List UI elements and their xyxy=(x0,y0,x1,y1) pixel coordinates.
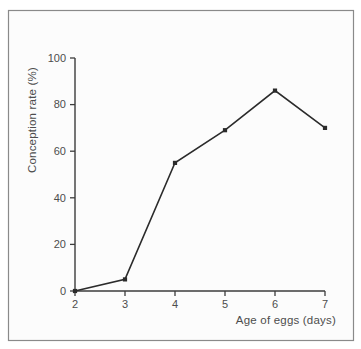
y-tick-label: 100 xyxy=(48,52,66,64)
y-tick-label: 80 xyxy=(54,98,66,110)
data-point-marker xyxy=(73,289,77,293)
data-point-marker xyxy=(123,277,127,281)
x-tick-label: 3 xyxy=(122,298,128,310)
figure-page: 020406080100234567 Conception rate (%) A… xyxy=(0,0,361,349)
data-point-marker xyxy=(273,89,277,93)
x-axis-title: Age of eggs (days) xyxy=(236,314,336,326)
y-axis-title: Conception rate (%) xyxy=(26,67,38,173)
conception-rate-line-chart: 020406080100234567 Conception rate (%) A… xyxy=(0,0,361,349)
y-tick-label: 60 xyxy=(54,145,66,157)
data-point-marker xyxy=(223,128,227,132)
x-tick-label: 5 xyxy=(222,298,228,310)
data-point-marker xyxy=(323,126,327,130)
data-point-marker xyxy=(173,161,177,165)
y-tick-label: 0 xyxy=(60,285,66,297)
y-tick-label: 40 xyxy=(54,192,66,204)
y-tick-label: 20 xyxy=(54,238,66,250)
x-tick-label: 4 xyxy=(172,298,178,310)
x-tick-label: 7 xyxy=(322,298,328,310)
x-tick-label: 2 xyxy=(72,298,78,310)
x-tick-label: 6 xyxy=(272,298,278,310)
